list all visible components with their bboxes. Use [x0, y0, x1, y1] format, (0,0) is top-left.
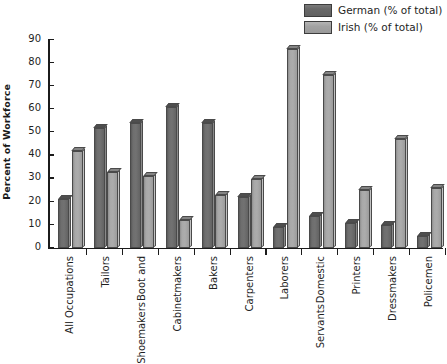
bar-front-face: [72, 151, 83, 248]
bar-irish: [143, 176, 156, 248]
y-axis-title: Percent of Workforce: [1, 84, 12, 200]
x-axis-label: Cabinetmakers: [172, 256, 184, 331]
legend-swatch-irish-icon: [304, 21, 332, 34]
x-axis-label-line: Shoemakers: [136, 302, 148, 364]
bar-front-face: [238, 197, 249, 248]
y-tick-label-0: 0: [35, 241, 41, 252]
y-tick-label-80: 80: [28, 56, 41, 67]
bar-irish: [179, 220, 192, 248]
bar-front-face: [323, 75, 334, 248]
bar-front-face: [143, 176, 154, 248]
y-tick-label-60: 60: [28, 102, 41, 113]
y-tick-10: 10: [48, 224, 54, 225]
bar-front-face: [395, 139, 406, 248]
bar-irish: [431, 188, 444, 248]
bar-german: [273, 227, 286, 248]
x-tick-2: [158, 248, 159, 255]
bar-front-face: [94, 128, 105, 248]
bar-irish: [107, 172, 120, 248]
y-tick-20: 20: [48, 201, 54, 202]
bar-irish: [395, 139, 408, 248]
chart-legend: German (% of total) Irish (% of total): [304, 3, 442, 34]
bar-irish: [287, 49, 300, 248]
bar-german: [58, 199, 71, 248]
x-tick-9: [409, 248, 410, 255]
bar-german: [417, 236, 430, 248]
bar-front-face: [107, 172, 118, 248]
x-tick-1: [122, 248, 123, 255]
x-tick-10: [445, 248, 446, 255]
bar-front-face: [309, 216, 320, 248]
x-axis-label: All Occupations: [64, 256, 76, 334]
bar-german: [381, 225, 394, 248]
x-tick-7: [337, 248, 338, 255]
bar-front-face: [359, 190, 370, 248]
x-tick-3: [194, 248, 195, 255]
y-tick-50: 50: [48, 131, 54, 132]
bar-front-face: [166, 107, 177, 248]
bar-irish: [215, 195, 228, 248]
bar-german: [94, 128, 107, 248]
bar-front-face: [417, 236, 428, 248]
y-tick-label-70: 70: [28, 79, 41, 90]
plot-area: 0102030405060708090: [48, 40, 443, 248]
bar-front-face: [215, 195, 226, 248]
x-axis-label: Printers: [351, 256, 363, 294]
y-tick-label-10: 10: [28, 218, 41, 229]
x-tick-8: [373, 248, 374, 255]
bar-german: [202, 123, 215, 248]
y-tick-70: 70: [48, 85, 54, 86]
legend-swatch-german-icon: [304, 4, 332, 17]
y-axis-line: [48, 40, 50, 249]
x-tick-5: [265, 248, 266, 255]
x-axis-label: Bakers: [208, 256, 220, 290]
y-tick-40: 40: [48, 154, 54, 155]
bar-front-face: [179, 220, 190, 248]
bar-irish: [359, 190, 372, 248]
x-axis-label: Policemen: [423, 256, 435, 307]
bar-german: [238, 197, 251, 248]
legend-label-irish: Irish (% of total): [338, 21, 423, 33]
bar-german: [345, 223, 358, 248]
bar-front-face: [273, 227, 284, 248]
bar-german: [130, 123, 143, 248]
x-axis-label: Laborers: [279, 256, 291, 300]
x-axis-label-line: Domestic: [315, 256, 327, 303]
y-tick-label-20: 20: [28, 195, 41, 206]
x-tick-0: [86, 248, 87, 255]
x-axis-label: DomesticServants: [315, 256, 327, 348]
bar-front-face: [251, 179, 262, 248]
bar-front-face: [431, 188, 442, 248]
y-tick-0: 0: [48, 247, 54, 248]
bar-front-face: [345, 223, 356, 248]
x-axis-labels: All OccupationsTailorsBoot andShoemakers…: [48, 256, 443, 333]
x-tick-6: [301, 248, 302, 255]
x-axis-label: Carpenters: [244, 256, 256, 311]
x-axis-label: Tailors: [100, 256, 112, 288]
x-axis-label-line: Boot and: [136, 256, 148, 301]
y-tick-80: 80: [48, 62, 54, 63]
y-tick-label-30: 30: [28, 171, 41, 182]
x-tick-4: [230, 248, 231, 255]
y-tick-label-50: 50: [28, 125, 41, 136]
bar-irish: [323, 75, 336, 248]
y-tick-30: 30: [48, 177, 54, 178]
y-tick-label-40: 40: [28, 148, 41, 159]
bar-irish: [72, 151, 85, 248]
bar-german: [309, 216, 322, 248]
x-axis-label: Dressmakers: [387, 256, 399, 321]
bar-front-face: [381, 225, 392, 248]
legend-item-irish: Irish (% of total): [304, 20, 442, 34]
legend-label-german: German (% of total): [338, 4, 442, 16]
y-tick-90: 90: [48, 39, 54, 40]
bar-german: [166, 107, 179, 248]
bar-front-face: [287, 49, 298, 248]
bar-irish: [251, 179, 264, 248]
x-axis-label-line: Servants: [315, 304, 327, 348]
bar-front-face: [58, 199, 69, 248]
x-axis-label: Boot andShoemakers: [136, 256, 148, 364]
y-tick-label-90: 90: [28, 33, 41, 44]
bar-front-face: [202, 123, 213, 248]
legend-item-german: German (% of total): [304, 3, 442, 17]
